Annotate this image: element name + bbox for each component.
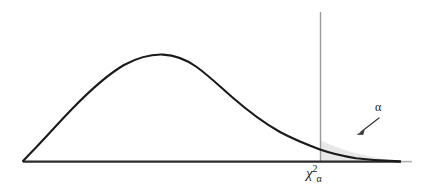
chi-symbol: χ — [306, 165, 313, 181]
tail-area-label: α — [375, 101, 381, 113]
critical-value-label: χ2α — [306, 164, 322, 184]
alpha-annotation-arrow — [361, 118, 379, 132]
chi-square-plot — [0, 0, 437, 195]
chi-square-distribution-figure: χ2α α — [0, 0, 437, 195]
alpha-arrow-head-icon — [358, 130, 365, 134]
chi-square-density-curve — [23, 55, 400, 162]
chi-subscript-alpha: α — [317, 173, 322, 184]
